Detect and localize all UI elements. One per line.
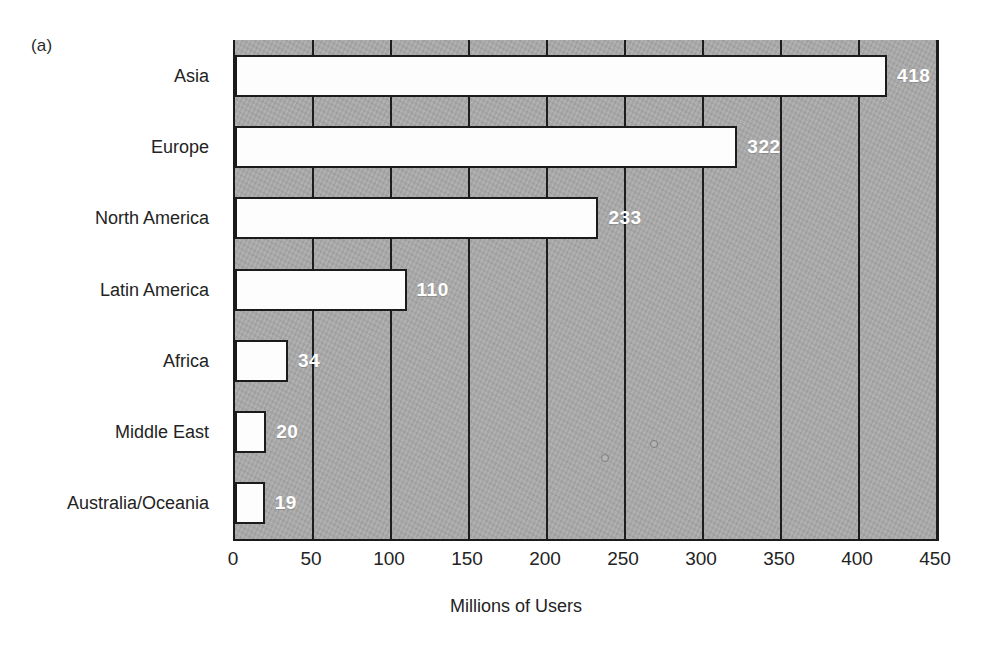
bar-row: 110	[235, 269, 937, 311]
bar-value-label: 19	[275, 492, 297, 514]
x-tick-label: 100	[373, 548, 405, 570]
bar-row: 20	[235, 411, 937, 453]
x-axis-title-text: Millions of Users	[450, 596, 582, 617]
category-label: Africa	[163, 350, 209, 371]
bar-row: 322	[235, 126, 937, 168]
bar[interactable]	[235, 482, 265, 524]
bar[interactable]	[235, 411, 266, 453]
bar-value-label: 110	[417, 279, 449, 301]
bar-value-label: 20	[276, 421, 298, 443]
bar-value-label: 322	[747, 136, 780, 158]
bar-row: 34	[235, 340, 937, 382]
bar[interactable]	[235, 269, 407, 311]
bar-value-label: 233	[608, 207, 641, 229]
x-tick-label: 400	[841, 548, 873, 570]
category-label: North America	[95, 208, 209, 229]
x-tick-label: 150	[451, 548, 483, 570]
category-label: Middle East	[115, 422, 209, 443]
bar[interactable]	[235, 340, 288, 382]
x-tick-label: 0	[228, 548, 239, 570]
category-label: Latin America	[100, 279, 209, 300]
x-tick-label: 450	[919, 548, 951, 570]
bar[interactable]	[235, 55, 887, 97]
bar-chart-figure: (a) 418322233110342019 AsiaEuropeNorth A…	[0, 0, 992, 648]
bar[interactable]	[235, 126, 737, 168]
x-tick-label: 350	[763, 548, 795, 570]
category-label: Europe	[151, 136, 209, 157]
x-tick-label: 50	[300, 548, 321, 570]
x-axis-title: Millions of Users	[0, 596, 992, 617]
bar[interactable]	[235, 197, 598, 239]
category-label: Asia	[174, 65, 209, 86]
plot-area: 418322233110342019	[233, 40, 937, 541]
bar-row: 19	[235, 482, 937, 524]
x-tick-label: 250	[607, 548, 639, 570]
scan-speck	[601, 454, 609, 462]
category-label: Australia/Oceania	[67, 493, 209, 514]
x-tick-label: 200	[529, 548, 561, 570]
bar-value-label: 418	[897, 65, 930, 87]
x-tick-label: 300	[685, 548, 717, 570]
bar-row: 418	[235, 55, 937, 97]
panel-label: (a)	[31, 36, 52, 56]
bar-row: 233	[235, 197, 937, 239]
bar-value-label: 34	[298, 350, 320, 372]
